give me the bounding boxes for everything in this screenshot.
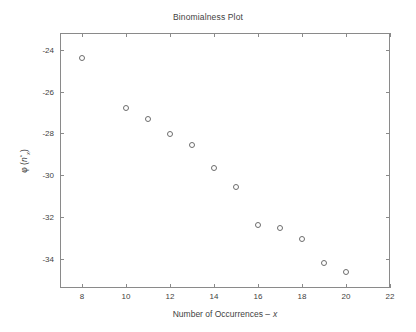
x-axis-tick (346, 284, 347, 288)
y-tick-label: -30 (42, 171, 54, 180)
x-axis-tick (82, 284, 83, 288)
data-point (321, 260, 327, 266)
x-axis-tick (302, 284, 303, 288)
data-point (277, 225, 283, 231)
x-axis-label-variable: x (270, 309, 277, 319)
x-axis-tick (170, 33, 171, 37)
x-axis-tick (214, 284, 215, 288)
y-axis-tick (386, 259, 390, 260)
x-axis-tick (126, 284, 127, 288)
x-axis-tick (390, 284, 391, 288)
y-axis-tick (386, 217, 390, 218)
axes-box (60, 33, 390, 288)
figure-canvas: Binomialness Plot 810121416182022 -24-26… (0, 0, 416, 332)
y-tick-label: -34 (42, 254, 54, 263)
x-axis-tick (390, 33, 391, 37)
plot-area: 810121416182022 -24-26-28-30-32-34 Numbe… (60, 33, 390, 288)
y-axis-tick (386, 92, 390, 93)
y-axis-tick (386, 133, 390, 134)
data-point (189, 142, 195, 148)
y-axis-label-superscript: * (19, 155, 25, 157)
x-tick-label: 22 (386, 292, 395, 301)
y-axis-label: φ (n*x) (19, 149, 32, 173)
y-axis-tick (60, 92, 64, 93)
y-axis-tick (60, 259, 64, 260)
data-point (145, 116, 151, 122)
y-axis-label-phi: φ ( (19, 162, 29, 173)
data-point (79, 55, 85, 61)
data-point (343, 269, 349, 275)
x-tick-label: 14 (210, 292, 219, 301)
x-tick-label: 16 (254, 292, 263, 301)
data-point (211, 165, 217, 171)
x-axis-tick (302, 33, 303, 37)
y-tick-label: -24 (42, 45, 54, 54)
y-tick-label: -28 (42, 129, 54, 138)
data-point (299, 236, 305, 242)
data-point (123, 105, 129, 111)
data-point (233, 184, 239, 190)
x-tick-label: 12 (166, 292, 175, 301)
chart-title: Binomialness Plot (0, 12, 416, 22)
y-axis-label-close: ) (19, 149, 29, 152)
x-axis-tick (82, 33, 83, 37)
y-axis-tick (60, 175, 64, 176)
y-axis-tick (60, 133, 64, 134)
y-axis-tick (60, 50, 64, 51)
x-axis-tick (214, 33, 215, 37)
x-tick-label: 8 (80, 292, 84, 301)
x-axis-label-text: Number of Occurrences – (173, 309, 270, 319)
x-axis-tick (258, 284, 259, 288)
x-axis-label: Number of Occurrences –x (60, 309, 390, 319)
x-axis-tick (126, 33, 127, 37)
x-axis-tick (346, 33, 347, 37)
x-tick-label: 10 (122, 292, 131, 301)
y-tick-label: -32 (42, 212, 54, 221)
x-tick-label: 20 (342, 292, 351, 301)
x-tick-label: 18 (298, 292, 307, 301)
y-axis-tick (386, 50, 390, 51)
data-point (167, 131, 173, 137)
x-axis-tick (258, 33, 259, 37)
y-tick-label: -26 (42, 87, 54, 96)
x-axis-tick (170, 284, 171, 288)
y-axis-tick (60, 217, 64, 218)
data-point (255, 222, 261, 228)
y-axis-tick (386, 175, 390, 176)
